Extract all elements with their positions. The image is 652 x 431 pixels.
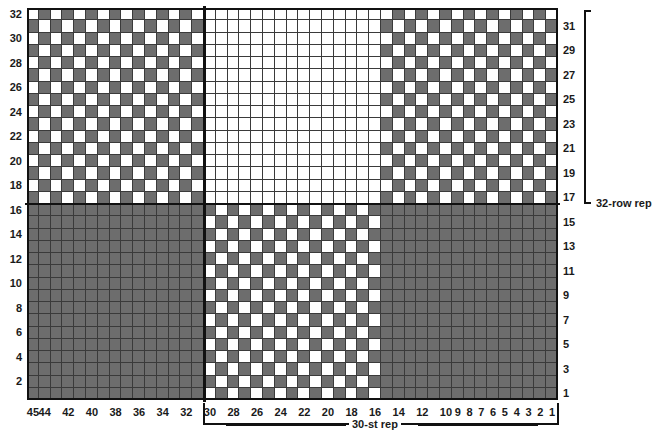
- chart-cell: [346, 351, 358, 363]
- chart-cell: [169, 253, 181, 265]
- chart-cell: [298, 167, 310, 179]
- chart-cell: [523, 376, 535, 388]
- chart-cell: [369, 180, 381, 192]
- row-number-label: 3: [563, 364, 581, 375]
- chart-cell: [393, 253, 405, 265]
- chart-cell: [452, 229, 464, 241]
- chart-cell: [157, 302, 169, 314]
- chart-cell: [62, 302, 74, 314]
- chart-cell: [452, 278, 464, 290]
- chart-cell: [499, 57, 511, 69]
- chart-cell: [251, 314, 263, 326]
- chart-cell: [393, 302, 405, 314]
- row-number-label: 2: [2, 376, 22, 387]
- chart-cell: [133, 290, 145, 302]
- chart-cell: [428, 265, 440, 277]
- chart-cell: [310, 20, 322, 32]
- chart-cell: [499, 8, 511, 20]
- chart-cell: [263, 143, 275, 155]
- chart-cell: [475, 265, 487, 277]
- chart-cell: [121, 155, 133, 167]
- chart-cell: [298, 204, 310, 216]
- chart-cell: [334, 314, 346, 326]
- chart-cell: [440, 241, 452, 253]
- chart-cell: [251, 69, 263, 81]
- chart-cell: [357, 204, 369, 216]
- chart-cell: [51, 253, 63, 265]
- chart-cell: [180, 327, 192, 339]
- chart-cell: [86, 45, 98, 57]
- chart-cell: [204, 20, 216, 32]
- chart-cell: [416, 8, 428, 20]
- chart-cell: [204, 8, 216, 20]
- chart-cell: [475, 339, 487, 351]
- chart-cell: [110, 45, 122, 57]
- chart-cell: [86, 57, 98, 69]
- chart-cell: [275, 376, 287, 388]
- chart-cell: [228, 20, 240, 32]
- chart-cell: [464, 290, 476, 302]
- chart-cell: [39, 327, 51, 339]
- chart-cell: [523, 351, 535, 363]
- chart-cell: [523, 155, 535, 167]
- chart-cell: [381, 376, 393, 388]
- chart-cell: [239, 278, 251, 290]
- chart-cell: [310, 33, 322, 45]
- chart-cell: [381, 363, 393, 375]
- chart-cell: [180, 302, 192, 314]
- chart-cell: [145, 167, 157, 179]
- chart-cell: [405, 106, 417, 118]
- chart-cell: [381, 351, 393, 363]
- chart-cell: [110, 314, 122, 326]
- chart-cell: [322, 33, 334, 45]
- chart-cell: [180, 155, 192, 167]
- chart-cell: [275, 180, 287, 192]
- chart-cell: [180, 192, 192, 204]
- chart-cell: [464, 69, 476, 81]
- chart-cell: [27, 94, 39, 106]
- chart-cell: [27, 265, 39, 277]
- chart-cell: [534, 363, 546, 375]
- chart-cell: [216, 204, 228, 216]
- chart-cell: [204, 376, 216, 388]
- chart-cell: [310, 155, 322, 167]
- chart-cell: [192, 388, 204, 400]
- chart-cell: [110, 204, 122, 216]
- row-number-label: 30: [2, 33, 22, 44]
- chart-cell: [322, 376, 334, 388]
- chart-cell: [405, 351, 417, 363]
- chart-cell: [239, 363, 251, 375]
- chart-cell: [334, 229, 346, 241]
- chart-cell: [487, 376, 499, 388]
- chart-cell: [27, 106, 39, 118]
- chart-cell: [169, 278, 181, 290]
- chart-cell: [511, 339, 523, 351]
- row-number-label: 11: [563, 266, 581, 277]
- chart-cell: [381, 204, 393, 216]
- chart-cell: [110, 253, 122, 265]
- chart-cell: [334, 351, 346, 363]
- chart-cell: [475, 229, 487, 241]
- chart-cell: [110, 131, 122, 143]
- chart-cell: [228, 204, 240, 216]
- chart-cell: [511, 241, 523, 253]
- chart-cell: [169, 106, 181, 118]
- row-number-label: 32: [2, 9, 22, 20]
- chart-cell: [322, 143, 334, 155]
- chart-cell: [192, 314, 204, 326]
- chart-cell: [192, 192, 204, 204]
- chart-cell: [133, 20, 145, 32]
- chart-cell: [169, 216, 181, 228]
- chart-cell: [39, 241, 51, 253]
- chart-cell: [263, 204, 275, 216]
- chart-cell: [440, 82, 452, 94]
- chart-cell: [440, 118, 452, 130]
- chart-cell: [487, 314, 499, 326]
- chart-cell: [534, 192, 546, 204]
- chart-cell: [452, 82, 464, 94]
- chart-cell: [62, 131, 74, 143]
- chart-cell: [464, 265, 476, 277]
- chart-cell: [157, 180, 169, 192]
- chart-cell: [369, 376, 381, 388]
- chart-cell: [98, 69, 110, 81]
